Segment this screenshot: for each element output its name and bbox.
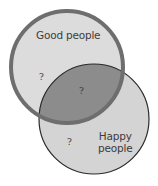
happy-people-label-line1: Happy bbox=[98, 130, 132, 142]
happy-people-label-line2: people bbox=[98, 142, 132, 154]
happy-only-question-mark: ? bbox=[67, 137, 72, 147]
good-only-question-mark: ? bbox=[39, 72, 44, 82]
good-people-label: Good people bbox=[36, 29, 100, 41]
happy-people-label: Happy people bbox=[98, 130, 132, 154]
intersection-question-mark: ? bbox=[79, 86, 84, 96]
